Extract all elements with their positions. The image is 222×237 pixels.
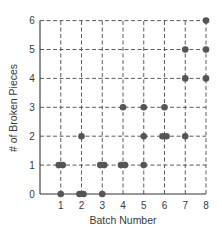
- data-point: [120, 104, 127, 111]
- x-tick-label: 2: [79, 200, 85, 211]
- y-tick-label: 4: [29, 73, 35, 84]
- x-tick-label: 6: [162, 200, 168, 211]
- y-tick-label: 5: [29, 44, 35, 55]
- y-axis-ticks: 0123456: [29, 15, 35, 199]
- data-point: [161, 104, 168, 111]
- x-tick-label: 1: [58, 200, 64, 211]
- data-point: [140, 162, 147, 169]
- data-point: [122, 162, 129, 169]
- x-tick-label: 7: [182, 200, 188, 211]
- data-point: [140, 104, 147, 111]
- data-point: [57, 191, 64, 198]
- x-axis-title: Batch Number: [89, 214, 157, 226]
- data-point: [78, 133, 85, 140]
- x-tick-label: 3: [99, 200, 105, 211]
- data-point: [203, 75, 210, 82]
- data-point: [203, 17, 210, 24]
- scatter-chart: 0123456 12345678 Batch Number # of Broke…: [0, 0, 222, 237]
- x-tick-label: 8: [203, 200, 209, 211]
- y-axis-title: # of Broken Pieces: [7, 64, 19, 152]
- x-tick-label: 5: [141, 200, 147, 211]
- data-point: [182, 46, 189, 53]
- x-tick-label: 4: [120, 200, 126, 211]
- data-point: [99, 191, 106, 198]
- y-tick-label: 6: [29, 15, 35, 26]
- y-tick-label: 1: [29, 160, 35, 171]
- data-point: [101, 162, 108, 169]
- data-point: [203, 46, 210, 53]
- x-axis-ticks: 12345678: [58, 200, 209, 211]
- y-tick-label: 0: [29, 189, 35, 200]
- data-point: [182, 133, 189, 140]
- data-point: [163, 133, 170, 140]
- data-point: [182, 75, 189, 82]
- y-tick-label: 2: [29, 131, 35, 142]
- y-tick-label: 3: [29, 102, 35, 113]
- data-point: [80, 191, 87, 198]
- data-point: [140, 133, 147, 140]
- data-point: [59, 162, 66, 169]
